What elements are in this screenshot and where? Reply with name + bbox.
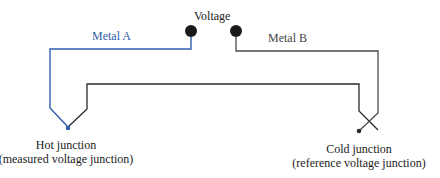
metal-a-label: Metal A [92,29,131,43]
cold-junction-label: Cold junction [326,142,392,156]
cold-junction-sublabel: (reference voltage junction) [292,156,425,170]
left-voltage-terminal [185,25,197,37]
hot-junction-sublabel: (measured voltage junction) [0,152,133,166]
hot-junction [66,126,71,131]
connecting-wire [68,84,378,130]
cold-junction [357,129,362,134]
hot-junction-label: Hot junction [36,138,96,152]
metal-b-wire [236,30,378,131]
right-voltage-terminal [230,25,242,37]
metal-b-label: Metal B [268,31,307,45]
voltage-label: Voltage [194,9,230,23]
metal-a-wire [50,30,191,127]
